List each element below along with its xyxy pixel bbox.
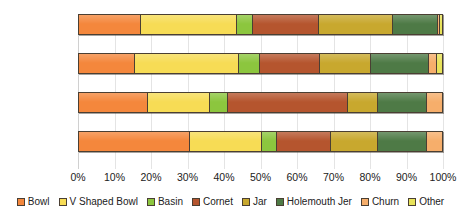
x-axis: 0%10%20%30%40%50%60%70%80%90%100%: [78, 171, 443, 187]
bar-row[interactable]: [78, 131, 443, 152]
legend-item[interactable]: Jar: [242, 196, 267, 207]
legend-swatch-icon: [361, 198, 369, 206]
bar-segment-holemouth-jer[interactable]: [371, 54, 429, 73]
legend-label: Jar: [253, 196, 267, 207]
x-axis-tick-label: 100%: [430, 171, 457, 183]
x-axis-tick-label: 70%: [323, 171, 344, 183]
x-axis-tick-label: 0%: [70, 171, 85, 183]
legend-item[interactable]: Cornet: [192, 196, 233, 207]
legend-item[interactable]: Bowl: [17, 196, 50, 207]
bar-segment-v-shaped-bowl[interactable]: [141, 15, 237, 34]
legend-item[interactable]: V Shaped Bowl: [59, 196, 138, 207]
legend-item[interactable]: Basin: [147, 196, 183, 207]
legend-item[interactable]: Holemouth Jer: [276, 196, 352, 207]
bar-segment-basin[interactable]: [210, 93, 228, 112]
bar-segment-basin[interactable]: [239, 54, 261, 73]
x-axis-tick-label: 80%: [359, 171, 380, 183]
stacked-bar-chart: J (n=526)I (n=1140)C (n=3925)A (n=3005) …: [0, 0, 461, 222]
bar-segment-other[interactable]: [437, 54, 442, 73]
bar-row[interactable]: [78, 14, 443, 35]
bar-segment-basin[interactable]: [262, 132, 277, 151]
bar-segment-cornet[interactable]: [260, 54, 320, 73]
bar-segment-jar[interactable]: [331, 132, 378, 151]
legend-swatch-icon: [192, 198, 200, 206]
legend-swatch-icon: [59, 198, 67, 206]
bar-segment-churn[interactable]: [429, 54, 436, 73]
bar-segment-holemouth-jer[interactable]: [378, 132, 427, 151]
legend-swatch-icon: [147, 198, 155, 206]
bar-segment-cornet[interactable]: [253, 15, 318, 34]
legend-label: Bowl: [28, 196, 50, 207]
bar-row[interactable]: [78, 92, 443, 113]
bar-segment-cornet[interactable]: [228, 93, 348, 112]
bar-segment-bowl[interactable]: [79, 15, 141, 34]
bar-segment-holemouth-jer[interactable]: [393, 15, 438, 34]
bar-segment-basin[interactable]: [237, 15, 253, 34]
x-axis-tick-label: 90%: [396, 171, 417, 183]
bar-segment-jar[interactable]: [319, 15, 393, 34]
bar-segment-bowl[interactable]: [79, 132, 190, 151]
legend-item[interactable]: Other: [408, 196, 444, 207]
legend-label: Other: [419, 196, 444, 207]
bar-segment-other[interactable]: [440, 15, 442, 34]
legend-label: V Shaped Bowl: [70, 196, 138, 207]
bar-segment-cornet[interactable]: [277, 132, 331, 151]
bar-segment-v-shaped-bowl[interactable]: [148, 93, 210, 112]
bar-segment-bowl[interactable]: [79, 93, 148, 112]
gridline: [443, 14, 444, 169]
x-axis-tick-label: 20%: [140, 171, 161, 183]
bar-segment-bowl[interactable]: [79, 54, 135, 73]
chart-legend: BowlV Shaped BowlBasinCornetJarHolemouth…: [0, 196, 461, 207]
x-axis-tick-label: 40%: [213, 171, 234, 183]
x-axis-tick-label: 10%: [104, 171, 125, 183]
legend-swatch-icon: [408, 198, 416, 206]
bar-segment-v-shaped-bowl[interactable]: [190, 132, 263, 151]
legend-label: Churn: [372, 196, 399, 207]
x-axis-tick-label: 50%: [250, 171, 271, 183]
bar-segment-v-shaped-bowl[interactable]: [135, 54, 238, 73]
legend-swatch-icon: [17, 198, 25, 206]
bar-segment-holemouth-jer[interactable]: [378, 93, 427, 112]
legend-label: Holemouth Jer: [287, 196, 352, 207]
legend-swatch-icon: [242, 198, 250, 206]
bar-row[interactable]: [78, 53, 443, 74]
x-axis-tick-label: 30%: [177, 171, 198, 183]
plot-area: [78, 14, 443, 169]
x-axis-tick-label: 60%: [286, 171, 307, 183]
legend-label: Cornet: [203, 196, 233, 207]
bar-segment-jar[interactable]: [320, 54, 371, 73]
bar-segment-jar[interactable]: [348, 93, 379, 112]
legend-swatch-icon: [276, 198, 284, 206]
legend-item[interactable]: Churn: [361, 196, 399, 207]
bar-segment-churn[interactable]: [427, 93, 442, 112]
legend-label: Basin: [158, 196, 183, 207]
bar-segment-churn[interactable]: [427, 132, 442, 151]
